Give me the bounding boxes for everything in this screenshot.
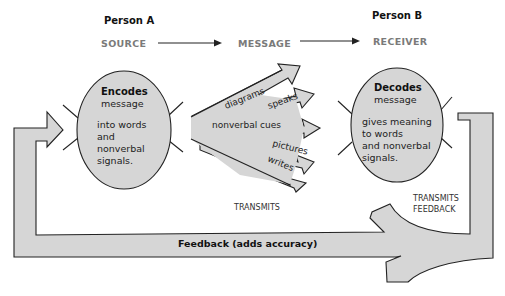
message-channels: diagrams speaks nonverbal cues pictures … (191, 64, 320, 192)
message-to-receiver-arrow-icon (300, 38, 360, 45)
channel-nonverbal-cues: nonverbal cues (212, 120, 281, 130)
decoder-line-1: message (374, 94, 417, 105)
encoder-line-3: and (97, 131, 115, 142)
transmits-feedback-caption-line-2: FEEDBACK (413, 205, 456, 214)
transmits-caption: TRANSMITS (233, 203, 280, 212)
encoder-tick-bl (63, 138, 78, 150)
decoder-title: Decodes (374, 82, 422, 93)
decoder-line-3: to words (362, 128, 403, 139)
person-b-label: Person B (372, 10, 422, 21)
decoder-node: Decodes message gives meaning to words a… (338, 68, 452, 182)
receiver-label: RECEIVER (373, 36, 428, 47)
decoder-tick-bl (338, 142, 352, 155)
communication-model-diagram: Person A Person B SOURCE MESSAGE RECEIVE… (0, 0, 505, 296)
encoder-line-4: nonverbal (97, 143, 145, 154)
encoder-line-5: signals. (97, 155, 133, 166)
decoder-line-5: signals. (362, 152, 398, 163)
message-label: MESSAGE (238, 38, 291, 49)
encoder-tick-tr (168, 102, 183, 116)
source-label: SOURCE (101, 38, 146, 49)
encoder-node: Encodes message into words and nonverbal… (63, 71, 183, 189)
decoder-line-2: gives meaning (362, 116, 432, 127)
person-a-label: Person A (104, 15, 154, 26)
feedback-label: Feedback (adds accuracy) (178, 238, 317, 249)
encoder-tick-tl (63, 105, 78, 118)
decoder-tick-tl (338, 101, 352, 114)
transmits-feedback-caption-line-1: TRANSMITS (412, 194, 459, 203)
decoder-line-4: and nonverbal (362, 140, 431, 151)
encoder-title: Encodes (101, 86, 148, 97)
encoder-line-1: message (101, 98, 144, 109)
source-to-message-arrow-icon (158, 40, 222, 47)
encoder-line-2: into words (97, 119, 147, 130)
